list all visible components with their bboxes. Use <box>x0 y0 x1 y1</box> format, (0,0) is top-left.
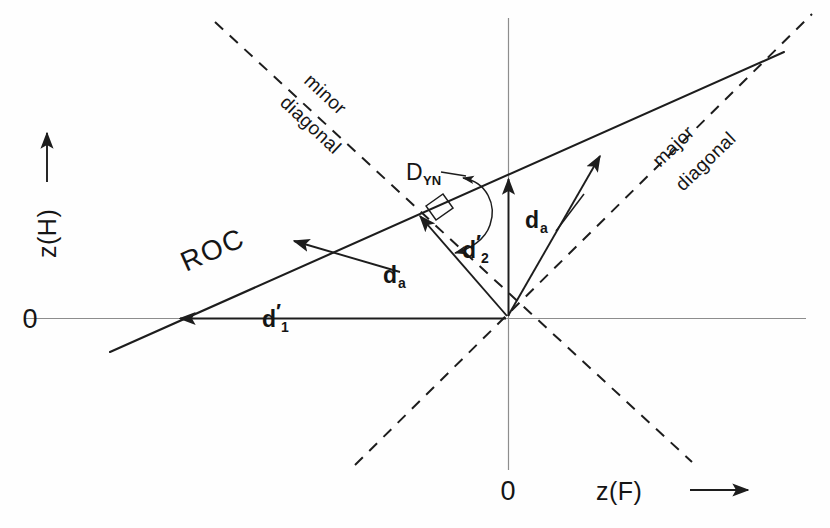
roc-label: ROC <box>176 222 250 277</box>
x-axis-origin-label: 0 <box>500 476 515 506</box>
major-diagonal-line <box>355 14 812 465</box>
major-diagonal-label-group: major diagonal <box>648 121 740 195</box>
vector-da-upper-leader <box>556 194 584 231</box>
vector-da-lower-label: d <box>383 262 397 288</box>
vector-da-upper-subscript: a <box>540 220 548 236</box>
angle-label-group: D YN <box>406 159 441 188</box>
y-axis-label: z(H) <box>33 209 61 258</box>
vector-da-lower-label-group: d a <box>383 262 406 291</box>
vector-d1-label-group: d ′ 1 <box>262 299 289 335</box>
vector-d1-label: d <box>262 306 276 332</box>
roc-curve-group <box>110 52 784 352</box>
angle-arc-leader <box>441 172 466 176</box>
angle-label-subscript: YN <box>423 173 441 188</box>
right-angle-marker <box>426 194 453 220</box>
vector-d2-subscript: 2 <box>481 250 489 266</box>
vector-d1-subscript: 1 <box>281 319 289 335</box>
y-axis-origin-label: 0 <box>22 304 37 334</box>
minor-diagonal-line <box>215 22 692 462</box>
vector-da-lower-arrow <box>420 216 507 316</box>
figure-root: z(H) 0 0 z(F) ROC minor diagonal major d… <box>0 0 830 528</box>
roc-line <box>110 52 784 352</box>
major-diagonal-group <box>355 14 812 465</box>
right-angle-icon <box>426 194 453 220</box>
vector-da-lower-subscript: a <box>398 275 406 291</box>
x-axis-label: z(F) <box>596 477 642 505</box>
minor-diagonal-group <box>215 22 692 462</box>
vector-d2-label: d <box>462 237 476 263</box>
vector-da-upper-label-group: d a <box>525 207 548 236</box>
vector-da-upper-label: d <box>525 207 539 233</box>
minor-diagonal-label-group: minor diagonal <box>276 70 351 159</box>
axis-group <box>24 18 806 470</box>
angle-label: D <box>406 159 423 185</box>
roc-diagram: z(H) 0 0 z(F) ROC minor diagonal major d… <box>0 0 830 528</box>
